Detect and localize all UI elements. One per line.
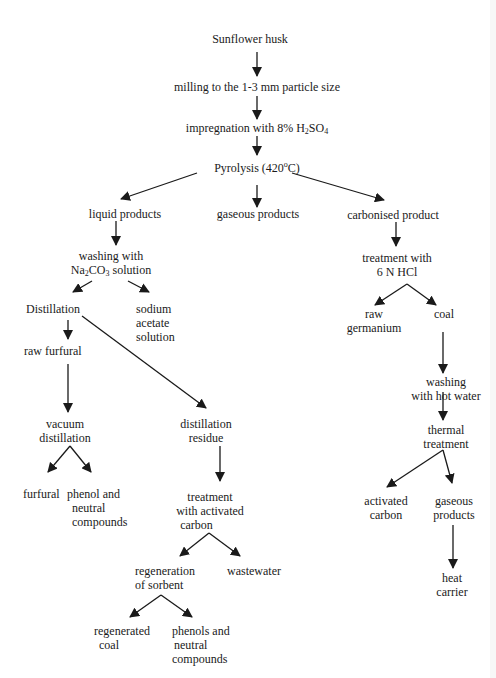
node-vacuum-distillation: vacuum distillation [39,417,90,445]
node-regenerated-coal: regenerated coal [94,624,150,652]
arrow-regeneration-to-phenols [161,595,192,617]
node-milling: milling to the 1-3 mm particle size [174,80,340,94]
node-treatment-hcl: treatment with 6 N HCl [362,251,432,279]
node-heat-carrier: heat carrier [436,571,467,599]
node-sunflower-husk: Sunflower husk [212,32,288,46]
node-washing-na2co3: washing with Na2CO3 solution [71,249,151,277]
node-coal: coal [434,307,454,321]
node-liquid-products: liquid products [89,207,161,221]
node-thermal-treatment: thermal treatment [423,423,468,451]
node-gaseous-products: gaseous products [217,207,299,221]
node-furfural: furfural [23,487,60,501]
node-wastewater: wastewater [227,564,281,578]
node-distillation-residue: distillation residue [180,417,231,445]
node-sodium-acetate: sodium acetate solution [136,302,175,344]
node-impregnation: impregnation with 8% H2SO4 [186,121,328,135]
arrow-treatment-to-regeneration [180,533,209,556]
arrow-hcl-to-coal [407,284,436,305]
node-pyrolysis: Pyrolysis (420oC) [214,161,300,175]
arrow-pyrolysis-to-carbonised [292,173,384,200]
arrow-vacuum-to-phenol [70,446,91,472]
node-activated-carbon: activated carbon [364,494,407,522]
node-gaseous-products-right: gaseous products [433,494,474,522]
node-distillation: Distillation [26,302,80,316]
arrow-pyrolysis-to-liquid [121,173,197,199]
arrow-washing-to-acetate [128,281,149,292]
node-washing-hot-water: washing with hot water [411,375,480,403]
flowchart-canvas: Sunflower husk milling to the 1-3 mm par… [0,0,496,678]
node-carbonised-product: carbonised product [347,208,439,222]
arrow-hcl-to-germanium [375,284,407,305]
node-raw-furfural: raw furfural [24,344,82,358]
arrow-vacuum-to-furfural [48,446,70,472]
arrow-thermal-to-gaseous [443,450,452,483]
node-phenol-neutral: phenol and neutral compounds [67,487,127,529]
arrow-thermal-to-activated [387,450,443,487]
node-raw-germanium: raw germanium [347,307,402,335]
node-treatment-activated-carbon: treatment with activated carbon [176,490,244,532]
node-regeneration-sorbent: regeneration of sorbent [135,564,195,592]
arrow-regeneration-to-regenerated-coal [130,595,161,617]
arrow-treatment-to-wastewater [209,533,240,556]
node-phenols-neutral: phenols and neutral compounds [172,624,230,666]
arrow-washing-to-distillation [73,281,92,292]
